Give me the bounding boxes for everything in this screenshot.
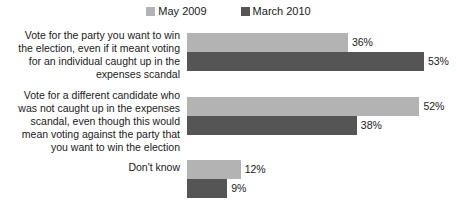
bar-value-label: 38% [361, 120, 382, 131]
bar-chart: May 2009 March 2010 Vote for the party y… [0, 0, 457, 202]
bar-value-label: 36% [352, 37, 373, 48]
plot-area: Vote for the party you want to win the e… [0, 28, 457, 202]
category-label: Don't know [8, 161, 180, 174]
bar-value-label: 9% [231, 183, 246, 194]
bar-stack: 36%53% [187, 33, 449, 71]
bar-may-2009 [187, 160, 241, 179]
bar-march-2010 [187, 52, 424, 71]
bar-row: 9% [187, 179, 266, 198]
bar-value-label: 12% [245, 164, 266, 175]
bar-may-2009 [187, 33, 348, 52]
category-label: Vote for a different candidate who was n… [8, 89, 180, 154]
category-label: Vote for the party you want to win the e… [8, 29, 180, 81]
bar-stack: 12%9% [187, 160, 266, 198]
bar-value-label: 53% [428, 56, 449, 67]
legend-entry-march-2010: March 2010 [241, 6, 311, 17]
bar-march-2010 [187, 116, 357, 135]
bar-row: 38% [187, 116, 444, 135]
bar-row: 52% [187, 97, 444, 116]
bar-row: 12% [187, 160, 266, 179]
chart-legend: May 2009 March 2010 [0, 6, 457, 17]
bar-row: 36% [187, 33, 449, 52]
legend-entry-may-2009: May 2009 [146, 6, 206, 17]
bar-march-2010 [187, 179, 227, 198]
legend-swatch-march-2010 [241, 7, 250, 16]
legend-label-march-2010: March 2010 [253, 6, 311, 17]
bar-stack: 52%38% [187, 97, 444, 135]
bar-value-label: 52% [423, 101, 444, 112]
bar-row: 53% [187, 52, 449, 71]
legend-label-may-2009: May 2009 [158, 6, 206, 17]
legend-swatch-may-2009 [146, 7, 155, 16]
bar-may-2009 [187, 97, 419, 116]
